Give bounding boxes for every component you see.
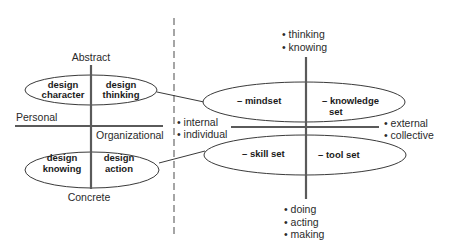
design-framework-diagram: Abstract Concrete Personal Organizationa… bbox=[0, 0, 450, 251]
label-mindset: – mindset bbox=[237, 95, 282, 106]
connector-top bbox=[157, 92, 204, 102]
label-design-knowing-1: design bbox=[47, 152, 78, 163]
left-quadrant-model: Abstract Concrete Personal Organizationa… bbox=[15, 51, 164, 203]
axis-label-personal: Personal bbox=[16, 111, 57, 123]
label-design-action-1: design bbox=[104, 152, 135, 163]
bullet-acting: • acting bbox=[284, 216, 319, 228]
label-design-character-2: character bbox=[42, 89, 85, 100]
label-design-thinking-2: thinking bbox=[103, 89, 140, 100]
bullet-external: • external bbox=[384, 117, 428, 129]
axis-label-organizational: Organizational bbox=[96, 129, 164, 141]
label-design-knowing-2: knowing bbox=[43, 163, 82, 174]
bullet-thinking: • thinking bbox=[282, 28, 325, 40]
bullet-internal: • internal bbox=[177, 116, 218, 128]
axis-label-concrete: Concrete bbox=[68, 191, 111, 203]
bullet-collective: • collective bbox=[384, 129, 434, 141]
label-tool-set: – tool set bbox=[318, 149, 361, 160]
right-quadrant-model: – mindset – knowledge set – skill set – … bbox=[177, 28, 434, 240]
label-knowledge-set-2: set bbox=[329, 106, 344, 117]
axis-label-abstract: Abstract bbox=[72, 51, 111, 63]
bullet-individual: • individual bbox=[177, 128, 227, 140]
bullet-making: • making bbox=[284, 228, 325, 240]
connector-bottom bbox=[159, 151, 205, 163]
label-design-action-2: action bbox=[105, 163, 133, 174]
bullet-knowing: • knowing bbox=[282, 41, 327, 53]
label-knowledge-set-1: – knowledge bbox=[322, 95, 379, 106]
bullet-doing: • doing bbox=[284, 203, 316, 215]
label-skill-set: – skill set bbox=[242, 148, 286, 159]
